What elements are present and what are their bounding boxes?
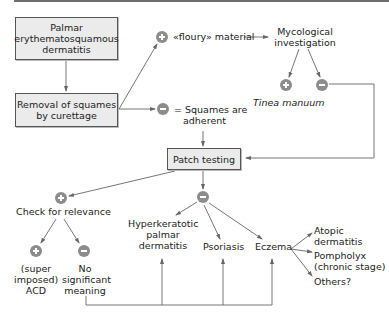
check-relevance-label: Check for relevance bbox=[16, 206, 106, 217]
minus-node-no-significance bbox=[78, 245, 90, 257]
others-label: Others? bbox=[314, 276, 351, 287]
no-sig-line-3: meaning bbox=[62, 285, 108, 296]
mycological-line-1: Mycological bbox=[270, 26, 340, 37]
squames-adherent-label-2: adherent bbox=[183, 115, 223, 126]
mycological-investigation-label: Mycological investigation bbox=[270, 26, 340, 48]
pompholyx-line-1: Pompholyx bbox=[314, 250, 385, 261]
plus-node-floury bbox=[156, 31, 168, 43]
removal-box: Removal of squames by curettage bbox=[15, 93, 118, 127]
atopic-line-2: dermatitis bbox=[314, 236, 362, 247]
hyper-line-3: dermatitis bbox=[128, 240, 198, 251]
floury-material-label: «floury» material bbox=[173, 31, 254, 42]
hyper-line-2: palmar bbox=[128, 229, 198, 240]
pompholyx-line-2: (chronic stage) bbox=[314, 261, 385, 272]
minus-node-adherent bbox=[157, 103, 169, 115]
minus-node-patch bbox=[197, 191, 209, 203]
mycological-line-2: investigation bbox=[270, 37, 340, 48]
start-box-line-2: erythematosquamous bbox=[14, 33, 118, 44]
no-significant-meaning-label: No significant meaning bbox=[62, 263, 108, 296]
no-sig-line-2: significant bbox=[62, 274, 108, 285]
removal-box-line-1: Removal of squames bbox=[17, 99, 116, 110]
atopic-dermatitis-label: Atopic dermatitis bbox=[314, 225, 362, 247]
start-box-palmar-dermatitis: Palmar erythematosquamous dermatitis bbox=[15, 17, 118, 60]
start-box-line-3: dermatitis bbox=[14, 44, 118, 55]
hyperkeratotic-label: Hyperkeratotic palmar dermatitis bbox=[128, 218, 198, 251]
plus-node-tinea bbox=[280, 79, 292, 91]
patch-testing-label: Patch testing bbox=[173, 154, 235, 165]
removal-box-line-2: by curettage bbox=[17, 110, 116, 121]
plus-node-acd bbox=[30, 245, 42, 257]
acd-line-2: imposed) bbox=[14, 274, 58, 285]
start-box-line-1: Palmar bbox=[14, 22, 118, 33]
patch-testing-box: Patch testing bbox=[167, 148, 241, 170]
pompholyx-label: Pompholyx (chronic stage) bbox=[314, 250, 385, 272]
acd-label: (super imposed) ACD bbox=[14, 263, 58, 296]
squames-adherent-label-1: = Squames are bbox=[174, 104, 247, 115]
minus-node-mycology bbox=[316, 79, 328, 91]
plus-node-patch bbox=[55, 192, 67, 204]
acd-line-1: (super bbox=[14, 263, 58, 274]
psoriasis-label: Psoriasis bbox=[203, 241, 243, 252]
hyper-line-1: Hyperkeratotic bbox=[128, 218, 198, 229]
tinea-manuum-label: Tinea manuum bbox=[253, 97, 319, 108]
no-sig-line-1: No bbox=[62, 263, 108, 274]
atopic-line-1: Atopic bbox=[314, 225, 362, 236]
eczema-label: Eczema bbox=[255, 241, 291, 252]
acd-line-3: ACD bbox=[14, 285, 58, 296]
